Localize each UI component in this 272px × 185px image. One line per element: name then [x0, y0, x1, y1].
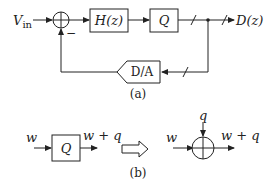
minus-sign: −	[66, 26, 76, 40]
noise-label: q	[199, 108, 207, 123]
output-label: D(z)	[235, 13, 263, 28]
filter-label: H(z)	[94, 13, 123, 28]
dac-label: D/A	[131, 65, 154, 79]
quantizer-input-label: w	[26, 130, 37, 145]
quantizer-label: Q	[159, 13, 170, 28]
quantizer-label-b: Q	[61, 141, 72, 156]
quantizer-output-label: w + q	[83, 128, 122, 143]
summing-junction-b	[192, 137, 214, 159]
caption-a: (a)	[130, 87, 147, 101]
caption-b: (b)	[129, 166, 146, 180]
sum-input-label: w	[166, 130, 177, 145]
figure-a: Vin − H(z) Q D(z) D/A (a)	[13, 9, 263, 101]
sum-output-label: w + q	[221, 128, 260, 143]
equivalence-arrow-icon	[122, 141, 148, 157]
figure-b: w Q w + q w q w + q (b)	[26, 108, 260, 180]
diagram-canvas: Vin − H(z) Q D(z) D/A (a) w Q w	[0, 0, 272, 185]
input-label-vin: Vin	[13, 13, 33, 30]
